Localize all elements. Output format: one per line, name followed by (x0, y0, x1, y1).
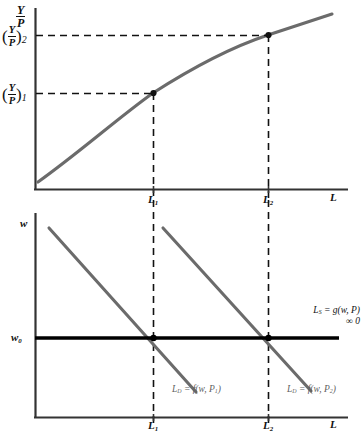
upper-x-tick-label-l2: L2 (263, 194, 273, 207)
diagram-svg (0, 0, 363, 435)
point-marker-1 (150, 90, 156, 96)
lower-x-axis-label: L (330, 419, 337, 430)
upper-l1-base: L (148, 193, 155, 205)
labor-demand-curve-1 (49, 228, 196, 392)
labor-demand-label-1: LD = f(w, P1) (172, 385, 221, 395)
labor-supply-label-line1: LS = g(w, P) (296, 306, 360, 316)
upper-l2-base: L (263, 193, 270, 205)
yp1-numerator: Y (8, 83, 16, 94)
lower-l1-subscript: 1 (155, 425, 158, 432)
upper-y-axis-numerator: Y (16, 4, 25, 16)
lower-l2-base: L (263, 419, 270, 431)
lower-x-tick-label-l2: L2 (263, 420, 273, 433)
yp2-numerator: Y (8, 25, 16, 36)
labor-supply-label-line2: ∞ 0 (296, 317, 360, 327)
equilibrium-marker-2 (265, 335, 271, 341)
upper-l1-subscript: 1 (155, 199, 158, 206)
lower-x-tick-label-l1: L1 (148, 420, 158, 433)
lower-l2-subscript: 2 (270, 425, 273, 432)
labor-supply-label: LS = g(w, P) ∞ 0 (296, 306, 360, 327)
production-function-curve (38, 14, 332, 182)
yp2-subscript: 2 (22, 34, 27, 45)
upper-x-tick-label-l1: L1 (148, 194, 158, 207)
lower-l1-base: L (148, 419, 155, 431)
lower-y-axis-label: w (20, 218, 27, 229)
yp1-denominator: P (8, 94, 16, 106)
y-tick-label-yp2: ( Y P )2 (2, 25, 27, 48)
labor-demand-label-2: LD = f(w, P2) (287, 385, 336, 395)
yp1-subscript: 1 (22, 92, 27, 103)
diagram-canvas: Y P ( Y P )2 ( Y P )1 L1 L2 L w w0 LD = … (0, 0, 363, 435)
lower-y-tick-label-w0: w0 (11, 332, 22, 345)
yp2-denominator: P (8, 36, 16, 48)
labor-demand-curve-2 (163, 228, 311, 391)
upper-x-axis-label: L (330, 192, 337, 203)
equilibrium-marker-1 (150, 335, 156, 341)
y-tick-label-yp1: ( Y P )1 (2, 83, 27, 106)
w0-subscript: 0 (18, 337, 21, 344)
point-marker-2 (265, 32, 271, 38)
upper-l2-subscript: 2 (270, 199, 273, 206)
